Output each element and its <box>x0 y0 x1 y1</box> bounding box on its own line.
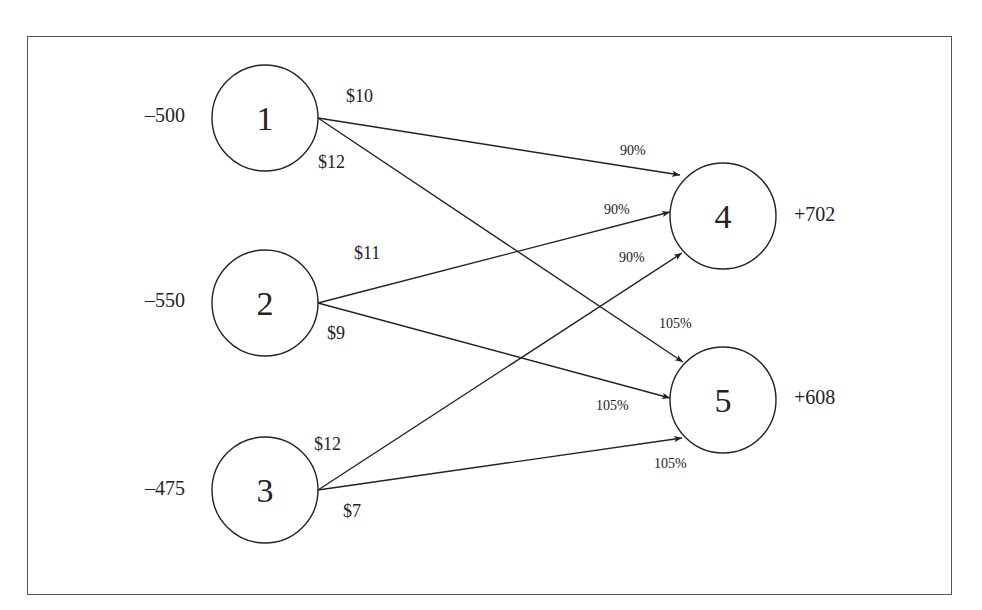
node-2-label: 2 <box>257 285 274 323</box>
cost-arc-2-5: $9 <box>327 323 345 344</box>
mult-arc-2-4: 90% <box>604 202 630 218</box>
mult-arc-1-5: 105% <box>659 316 692 332</box>
mult-arc-3-5: 105% <box>654 456 687 472</box>
node-1-label: 1 <box>257 100 274 138</box>
cost-arc-1-4: $10 <box>346 86 373 107</box>
cost-arc-2-4: $11 <box>354 243 380 264</box>
demand-node-4: +702 <box>794 203 835 226</box>
node-3-label: 3 <box>257 472 274 510</box>
cost-arc-3-5: $7 <box>343 501 361 522</box>
mult-arc-2-5: 105% <box>596 398 629 414</box>
supply-node-2: –550 <box>145 289 185 312</box>
supply-node-3: –475 <box>145 477 185 500</box>
mult-arc-3-4: 90% <box>619 250 645 266</box>
node-5-label: 5 <box>715 382 732 420</box>
cost-arc-3-4: $12 <box>314 434 341 455</box>
supply-node-1: –500 <box>145 104 185 127</box>
node-4-label: 4 <box>715 198 732 236</box>
mult-arc-1-4: 90% <box>620 143 646 159</box>
arc-3-5 <box>318 438 682 490</box>
demand-node-5: +608 <box>794 386 835 409</box>
cost-arc-1-5: $12 <box>318 152 345 173</box>
